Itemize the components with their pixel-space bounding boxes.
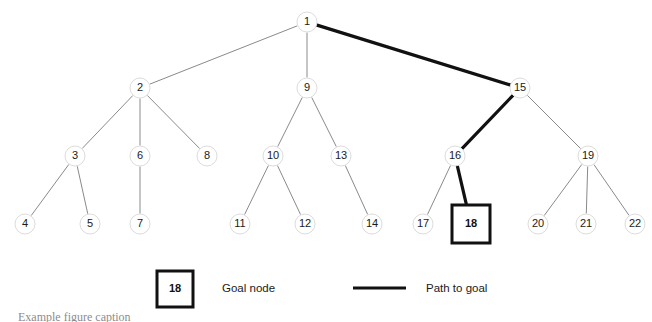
tree-node-label-15: 15 — [514, 81, 526, 93]
tree-node-2[interactable]: 2 — [130, 78, 150, 98]
tree-node-22[interactable]: 22 — [625, 214, 645, 234]
legend-goal-sample-label: 18 — [169, 282, 181, 294]
tree-node-11[interactable]: 11 — [230, 214, 250, 234]
tree-node-label-21: 21 — [580, 217, 592, 229]
tree-node-label-11: 11 — [234, 217, 245, 229]
tree-node-label-8: 8 — [204, 149, 210, 161]
caption-sliver: Example figure caption — [18, 311, 258, 322]
tree-node-14[interactable]: 14 — [362, 214, 382, 234]
tree-node-label-16: 16 — [449, 149, 461, 161]
tree-edge-16-18 — [457, 166, 466, 205]
tree-node-label-10: 10 — [267, 149, 279, 161]
tree-node-10[interactable]: 10 — [263, 146, 283, 166]
tree-node-12[interactable]: 12 — [295, 214, 315, 234]
tree-edge-19-21 — [586, 166, 587, 213]
tree-edge-19-22 — [594, 165, 629, 216]
tree-node-label-20: 20 — [532, 217, 544, 229]
tree-node-16[interactable]: 16 — [445, 146, 465, 166]
tree-node-label-1: 1 — [304, 15, 310, 27]
nodes-layer: 12915368101316194571112141718202122 — [15, 12, 645, 243]
tree-node-label-3: 3 — [72, 149, 78, 161]
tree-edge-15-16 — [462, 96, 512, 149]
tree-edge-3-5 — [77, 166, 87, 213]
search-tree-figure: 12915368101316194571112141718202122 18Go… — [0, 0, 652, 322]
tree-edge-19-20 — [544, 164, 582, 215]
tree-node-9[interactable]: 9 — [297, 78, 317, 98]
tree-edge-10-11 — [245, 165, 269, 214]
tree-edge-10-12 — [277, 166, 300, 215]
tree-node-4[interactable]: 4 — [15, 214, 35, 234]
tree-node-7[interactable]: 7 — [130, 214, 150, 234]
tree-node-3[interactable]: 3 — [65, 146, 85, 166]
legend-path-text: Path to goal — [426, 282, 487, 294]
legend-layer: 18Goal nodePath to goal — [157, 271, 487, 307]
tree-edge-3-4 — [31, 164, 69, 215]
tree-node-label-4: 4 — [22, 217, 28, 229]
tree-node-label-12: 12 — [299, 217, 311, 229]
tree-node-label-22: 22 — [629, 217, 641, 229]
tree-node-label-2: 2 — [137, 81, 143, 93]
tree-node-1[interactable]: 1 — [297, 12, 317, 32]
legend-goal-text: Goal node — [222, 282, 275, 294]
tree-node-15[interactable]: 15 — [510, 78, 530, 98]
tree-node-label-18: 18 — [465, 217, 477, 229]
tree-node-label-13: 13 — [335, 149, 347, 161]
tree-edge-2-8 — [147, 95, 199, 148]
tree-edge-13-14 — [345, 166, 367, 215]
tree-node-20[interactable]: 20 — [528, 214, 548, 234]
tree-node-17[interactable]: 17 — [413, 214, 433, 234]
tree-node-label-5: 5 — [87, 217, 93, 229]
tree-node-label-6: 6 — [137, 149, 143, 161]
tree-node-8[interactable]: 8 — [197, 146, 217, 166]
tree-node-5[interactable]: 5 — [80, 214, 100, 234]
tree-edge-9-13 — [312, 97, 337, 146]
tree-node-label-7: 7 — [137, 217, 143, 229]
tree-node-18[interactable]: 18 — [452, 205, 490, 243]
tree-node-label-19: 19 — [582, 149, 594, 161]
tree-node-label-9: 9 — [304, 81, 310, 93]
tree-node-label-14: 14 — [366, 217, 378, 229]
tree-diagram-canvas: 12915368101316194571112141718202122 18Go… — [0, 0, 652, 322]
tree-node-19[interactable]: 19 — [578, 146, 598, 166]
tree-edge-2-3 — [82, 96, 132, 149]
tree-edge-15-19 — [527, 95, 580, 148]
tree-node-label-17: 17 — [417, 217, 429, 229]
edges-layer — [31, 25, 629, 215]
tree-edge-9-10 — [278, 97, 303, 146]
tree-node-13[interactable]: 13 — [331, 146, 351, 166]
tree-edge-1-15 — [317, 25, 510, 85]
tree-node-21[interactable]: 21 — [576, 214, 596, 234]
tree-edge-16-17 — [427, 166, 450, 215]
tree-edge-1-2 — [150, 26, 297, 84]
tree-node-6[interactable]: 6 — [130, 146, 150, 166]
